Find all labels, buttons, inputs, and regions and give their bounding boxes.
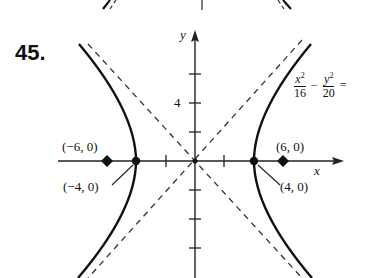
vertex-left-marker	[132, 157, 140, 165]
axes	[58, 30, 344, 278]
point-label-vertex-left: (−4, 0)	[63, 180, 99, 193]
vertex-right-marker	[250, 157, 258, 165]
equation-term-1: x2 16	[293, 72, 307, 99]
focus-right-marker	[277, 155, 289, 167]
point-label-vertex-right: (4, 0)	[280, 180, 308, 193]
focus-left-marker	[101, 155, 113, 167]
equation-operator: −	[311, 78, 318, 93]
point-label-focus-right: (6, 0)	[276, 140, 304, 153]
equation-term-2: y2 20	[322, 72, 336, 99]
equation-equals: =	[340, 78, 347, 93]
y-tick-label: 4	[174, 96, 181, 109]
hyperbola-equation: x2 16 − y2 20 =	[293, 72, 347, 99]
x-axis-label: x	[314, 164, 320, 177]
y-axis-label: y	[180, 28, 186, 41]
origin-marker	[193, 159, 198, 164]
point-label-focus-left: (−6, 0)	[62, 140, 98, 153]
